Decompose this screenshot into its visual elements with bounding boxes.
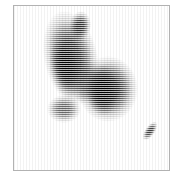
heatmap-source-faint-companion-streak bbox=[140, 119, 161, 143]
image-viewer bbox=[0, 0, 184, 180]
intensity-field bbox=[14, 6, 169, 170]
image-frame-border bbox=[13, 5, 170, 171]
heatmap-source-lower-left-tail bbox=[47, 95, 81, 123]
image-plate bbox=[14, 6, 169, 170]
